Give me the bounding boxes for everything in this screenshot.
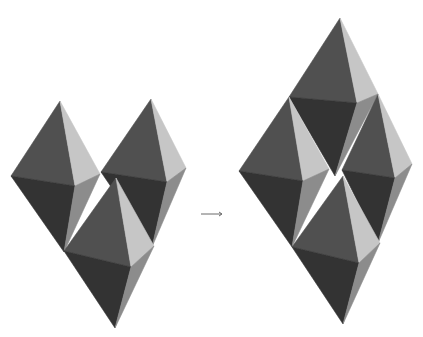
- diagram-canvas: [0, 0, 423, 337]
- octahedra-group-after: [239, 18, 412, 324]
- face-lower-left: [239, 171, 303, 247]
- face-lower-left: [11, 176, 75, 252]
- transformation-arrow-icon: [201, 212, 222, 216]
- face-upper-left: [289, 18, 357, 103]
- octahedra-diagram: [0, 0, 423, 337]
- octahedra-group-before: [11, 99, 186, 328]
